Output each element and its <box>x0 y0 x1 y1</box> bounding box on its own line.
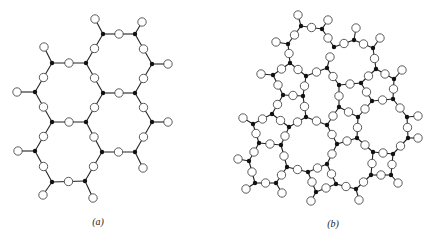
oxygen-atom-icon <box>276 116 284 124</box>
silicon-atom-icon <box>371 46 375 50</box>
panel-a-crystalline-network <box>13 15 172 202</box>
silicon-atom-icon <box>281 93 285 97</box>
oxygen-atom-icon <box>379 149 387 157</box>
silicon-atom-icon <box>304 74 308 78</box>
oxygen-atom-icon <box>308 178 316 186</box>
oxygen-atom-icon <box>164 118 172 126</box>
silicon-atom-icon <box>101 32 105 36</box>
silicon-atom-icon <box>389 173 393 177</box>
oxygen-atom-icon <box>139 133 147 141</box>
silicon-atom-icon <box>133 91 137 95</box>
oxygen-atom-icon <box>396 142 404 150</box>
oxygen-atom-icon <box>40 43 48 51</box>
oxygen-layer <box>13 15 172 202</box>
silicon-atom-icon <box>50 120 54 124</box>
oxygen-atom-icon <box>164 60 172 68</box>
oxygen-atom-icon <box>39 103 47 111</box>
oxygen-atom-icon <box>307 23 315 31</box>
oxygen-atom-icon <box>280 152 288 160</box>
silica-network-diagram <box>0 0 434 240</box>
oxygen-atom-icon <box>396 104 404 112</box>
oxygen-atom-icon <box>329 72 337 80</box>
oxygen-atom-icon <box>359 40 367 48</box>
oxygen-atom-icon <box>359 178 367 186</box>
oxygen-atom-icon <box>91 15 99 23</box>
silicon-atom-icon <box>306 170 310 174</box>
silicon-atom-icon <box>33 149 37 153</box>
panel-b-random-network <box>234 11 422 205</box>
oxygen-atom-icon <box>90 103 98 111</box>
silicon-atom-icon <box>286 42 290 46</box>
oxygen-atom-icon <box>368 159 376 167</box>
silicon-atom-icon <box>253 181 257 185</box>
oxygen-atom-icon <box>344 108 352 116</box>
silicon-atom-icon <box>50 180 54 184</box>
oxygen-atom-icon <box>388 160 396 168</box>
oxygen-atom-icon <box>90 44 98 52</box>
silicon-atom-icon <box>337 105 341 109</box>
oxygen-atom-icon <box>414 134 422 142</box>
oxygen-atom-icon <box>258 115 266 123</box>
oxygen-atom-icon <box>324 16 332 24</box>
oxygen-atom-icon <box>342 182 350 190</box>
oxygen-atom-icon <box>257 70 265 78</box>
silicon-atom-icon <box>371 150 375 154</box>
oxygen-atom-icon <box>324 34 332 42</box>
silicon-atom-icon <box>352 38 356 42</box>
oxygen-atom-icon <box>377 171 385 179</box>
caption-b: (b) <box>327 218 339 229</box>
silicon-atom-icon <box>359 81 363 85</box>
oxygen-atom-icon <box>293 118 301 126</box>
silicon-atom-icon <box>285 165 289 169</box>
oxygen-atom-icon <box>139 164 147 172</box>
oxygen-atom-icon <box>294 65 302 73</box>
oxygen-atom-icon <box>381 70 389 78</box>
oxygen-atom-icon <box>312 117 320 125</box>
oxygen-atom-icon <box>64 177 72 185</box>
oxygen-atom-icon <box>252 129 260 137</box>
silicon-atom-icon <box>33 90 37 94</box>
silicon-atom-icon <box>50 61 54 65</box>
silicon-atom-icon <box>314 190 318 194</box>
silicon-atom-icon <box>325 162 329 166</box>
oxygen-atom-icon <box>248 168 256 176</box>
caption-a-text: (a) <box>92 216 104 227</box>
oxygen-atom-icon <box>234 155 242 163</box>
oxygen-atom-icon <box>394 179 402 187</box>
caption-a: (a) <box>92 216 104 227</box>
oxygen-atom-icon <box>139 103 147 111</box>
oxygen-atom-icon <box>378 96 386 104</box>
oxygen-atom-icon <box>329 112 337 120</box>
silicon-atom-icon <box>271 73 275 77</box>
oxygen-atom-icon <box>398 66 406 74</box>
silicon-atom-icon <box>374 67 378 71</box>
silicon-atom-icon <box>405 115 409 119</box>
silicon-atom-icon <box>279 143 283 147</box>
silicon-atom-icon <box>370 99 374 103</box>
oxygen-atom-icon <box>239 114 247 122</box>
oxygen-atom-icon <box>293 165 301 173</box>
oxygen-atom-icon <box>343 137 351 145</box>
silicon-atom-icon <box>392 77 396 81</box>
oxygen-atom-icon <box>414 112 422 120</box>
oxygen-atom-icon <box>289 91 297 99</box>
oxygen-atom-icon <box>364 72 372 80</box>
oxygen-atom-icon <box>274 81 282 89</box>
silicon-atom-icon <box>150 62 154 66</box>
silicon-atom-icon <box>257 141 261 145</box>
oxygen-atom-icon <box>370 54 378 62</box>
oxygen-atom-icon <box>39 132 47 140</box>
oxygen-atom-icon <box>346 80 354 88</box>
silicon-atom-icon <box>325 123 329 127</box>
silicon-atom-icon <box>304 115 308 119</box>
silicon-atom-icon <box>83 179 87 183</box>
oxygen-atom-icon <box>272 38 280 46</box>
oxygen-atom-icon <box>300 82 308 90</box>
oxygen-atom-icon <box>312 68 320 76</box>
caption-b-text: (b) <box>327 218 339 229</box>
oxygen-layer <box>234 11 422 205</box>
silicon-atom-icon <box>251 122 255 126</box>
silicon-atom-icon <box>320 27 324 31</box>
silicon-atom-icon <box>274 181 278 185</box>
oxygen-atom-icon <box>300 102 308 110</box>
